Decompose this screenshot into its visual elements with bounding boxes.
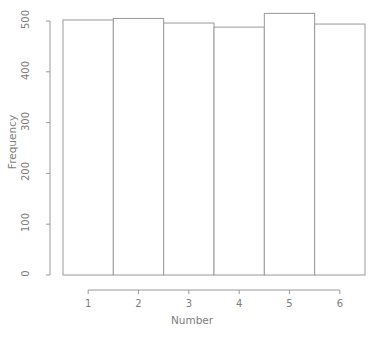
y-axis-title: Frequency <box>6 107 18 177</box>
bar-1 <box>63 20 113 275</box>
x-tick-label-1: 1 <box>78 298 98 309</box>
x-tick-label-3: 3 <box>179 298 199 309</box>
bars-group <box>63 13 365 275</box>
y-tick-label-500: 500 <box>20 3 31 37</box>
y-tick-label-200: 200 <box>20 155 31 189</box>
histogram-figure: Frequency 0100200300400500 123456 Number <box>0 0 384 338</box>
x-tick-label-5: 5 <box>280 298 300 309</box>
x-tick-label-6: 6 <box>330 298 350 309</box>
y-axis <box>46 21 50 275</box>
plot-svg <box>0 0 384 338</box>
y-tick-label-300: 300 <box>20 104 31 138</box>
plot-area <box>0 0 384 338</box>
bar-4 <box>214 27 264 275</box>
y-tick-label-100: 100 <box>20 206 31 240</box>
bar-6 <box>315 24 365 275</box>
x-axis <box>88 290 340 294</box>
bar-2 <box>113 18 163 275</box>
y-tick-label-400: 400 <box>20 53 31 87</box>
y-tick-label-0: 0 <box>20 257 31 291</box>
bar-5 <box>264 13 314 275</box>
x-axis-title: Number <box>0 314 384 326</box>
x-tick-label-4: 4 <box>229 298 249 309</box>
bar-3 <box>164 23 214 275</box>
x-tick-label-2: 2 <box>129 298 149 309</box>
